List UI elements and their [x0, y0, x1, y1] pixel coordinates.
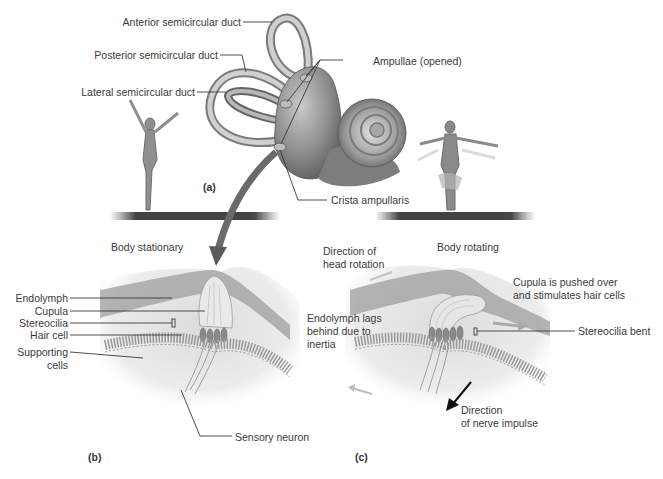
caption-body-rotating: Body rotating	[437, 241, 499, 253]
label-ampullae-opened: Ampullae (opened)	[373, 55, 462, 67]
floor-right	[375, 212, 535, 220]
label-endolymph-lags-line1: Endolymph lags	[307, 312, 382, 324]
label-stereocilia-bent: Stereocilia bent	[578, 325, 650, 337]
figure-canvas: Anterior semicircular duct Posterior sem…	[0, 0, 663, 479]
label-endolymph-lags-line2: behind due to	[307, 325, 371, 337]
floor-left	[110, 212, 280, 220]
label-cupula-pushed-line2: and stimulates hair cells	[513, 289, 625, 301]
cochlea	[338, 99, 406, 167]
label-supporting-cells-line2: cells	[0, 359, 68, 371]
caption-body-stationary: Body stationary	[111, 241, 183, 253]
label-sensory-neuron: Sensory neuron	[235, 431, 309, 443]
label-direction-head-rotation-line2: head rotation	[323, 258, 384, 270]
label-nerve-impulse-line1: Direction	[461, 404, 502, 416]
label-cupula-pushed-line1: Cupula is pushed over	[513, 276, 617, 288]
label-direction-head-rotation-line1: Direction of	[323, 245, 376, 257]
panel-a-tag: (a)	[203, 181, 216, 193]
magnification-arrow	[218, 152, 276, 250]
label-endolymph-lags-line3: inertia	[307, 338, 336, 350]
label-crista-ampullaris: Crista ampullaris	[331, 194, 409, 206]
rotating-dancer-figure	[418, 121, 498, 210]
crista-stationary	[100, 267, 300, 412]
label-hair-cell: Hair cell	[0, 329, 68, 341]
stationary-dancer-figure	[130, 100, 178, 210]
diagram-artwork	[0, 0, 663, 479]
label-stereocilia: Stereocilia	[0, 317, 68, 329]
panel-b-tag: (b)	[88, 451, 101, 463]
label-endolymph: Endolymph	[0, 292, 68, 304]
label-anterior-semicircular-duct: Anterior semicircular duct	[108, 16, 241, 28]
panel-c-tag: (c)	[355, 451, 368, 463]
label-supporting-cells-line1: Supporting	[0, 346, 68, 358]
label-cupula: Cupula	[0, 305, 68, 317]
label-lateral-semicircular-duct: Lateral semicircular duct	[60, 86, 195, 98]
label-posterior-semicircular-duct: Posterior semicircular duct	[74, 49, 218, 61]
label-nerve-impulse-line2: of nerve impulse	[461, 417, 538, 429]
magnification-arrowhead	[209, 246, 227, 266]
